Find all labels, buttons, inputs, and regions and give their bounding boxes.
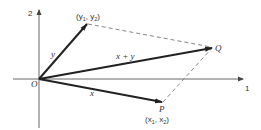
p-coords-suffix: ) — [166, 115, 169, 124]
point-p-label: P — [158, 104, 165, 114]
y-coords-prefix: (y — [76, 12, 83, 21]
vector-x — [39, 79, 162, 102]
vector-x-label: x — [89, 88, 94, 98]
y-coords-mid: , y — [86, 12, 94, 21]
y-coords-suffix: ) — [97, 12, 100, 21]
dashed-line-y-to-q — [88, 24, 211, 47]
p-coords-prefix: (x — [145, 115, 152, 124]
point-p-coords-label: (x1, x2) — [145, 115, 169, 125]
horizontal-axis-label: 1 — [245, 84, 250, 93]
vertical-axis-label: 2 — [28, 9, 33, 18]
point-y-coords-label: (y1, y2) — [76, 12, 100, 22]
vector-y-label: y — [50, 49, 55, 59]
origin-label: O — [31, 79, 38, 89]
vector-addition-diagram: 2 1 O (y1, y2) Q P (x1, x2) y x + y x — [0, 0, 261, 130]
point-q-label: Q — [215, 43, 222, 53]
vector-sum-label: x + y — [115, 51, 135, 61]
p-coords-mid: , x — [155, 115, 163, 124]
